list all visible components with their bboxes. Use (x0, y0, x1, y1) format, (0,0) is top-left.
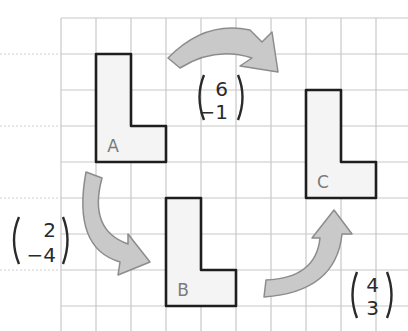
shape-b: B (166, 198, 236, 306)
vector-a-to-b-top: 2 (43, 218, 56, 242)
shape-a: A (96, 54, 166, 162)
vector-b-to-c-top: 4 (366, 273, 379, 297)
shape-b-label: B (177, 280, 189, 300)
shape-a-label: A (107, 136, 119, 156)
shape-c: C (306, 90, 376, 198)
left-paren-icon (14, 217, 19, 264)
vector-a-to-c-top: 6 (215, 77, 228, 101)
right-paren-icon (238, 75, 243, 120)
shape-c-label: C (317, 172, 329, 192)
arrow-b-to-c-icon (264, 210, 352, 297)
left-paren-icon (353, 272, 358, 318)
vector-b-to-c-bottom: 3 (366, 296, 379, 320)
vector-a-to-b-bottom: −4 (27, 243, 56, 267)
vector-a-to-c-bottom: −1 (199, 100, 228, 124)
arrow-a-to-b-icon (83, 172, 150, 275)
vector-b-to-c: 4 3 (353, 272, 392, 320)
right-paren-icon (387, 272, 392, 318)
right-paren-icon (63, 217, 68, 264)
arrow-a-to-c-icon (168, 28, 278, 72)
translation-diagram: A C B 6 −1 2 −4 4 3 (0, 0, 408, 331)
vector-a-to-b: 2 −4 (14, 217, 68, 267)
